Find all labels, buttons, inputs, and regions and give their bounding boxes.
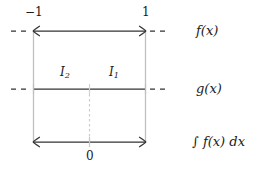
interval-label-I2-subscript: 2 [65, 70, 70, 80]
row-label-integral: ∫ f(x) dx [192, 135, 245, 148]
interval-label-I2: I2 [60, 66, 70, 79]
row-fx-group [11, 26, 168, 36]
row-gx-group [11, 84, 168, 94]
row-integral-group [33, 137, 146, 147]
tick-label-left: −1 [25, 6, 43, 18]
interval-label-I1: I1 [109, 66, 119, 79]
row-label-fx: f(x) [196, 24, 218, 37]
tick-label-center: 0 [86, 150, 94, 162]
tick-label-right: 1 [142, 6, 150, 18]
interval-label-I1-subscript: 1 [114, 70, 119, 80]
row-label-gx: g(x) [196, 82, 222, 95]
